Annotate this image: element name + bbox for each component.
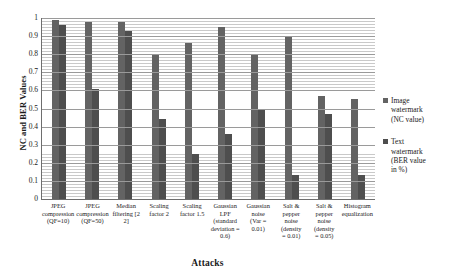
x-axis-tick-label-line: Scaling — [177, 202, 208, 210]
bar-ber-value — [225, 134, 232, 199]
y-axis-tick-label: 0 — [14, 195, 38, 203]
major-gridline — [42, 72, 375, 73]
y-axis-tick-label: 0.5 — [14, 105, 38, 113]
bar-ber-value — [125, 31, 132, 199]
x-axis-tick-label-line: (QF=50) — [76, 217, 108, 225]
major-gridline — [42, 90, 375, 91]
bar-nc-value — [285, 36, 292, 199]
x-axis-tick-label-line: pepper — [309, 210, 340, 218]
chart-legend: Imagewatermark(NC value)Textwatermark(BE… — [383, 96, 475, 188]
x-axis-tick-label-line: Histogram — [342, 202, 373, 210]
x-axis-tick-label-line: 0.6) — [210, 232, 241, 240]
plot-area — [41, 18, 375, 200]
x-axis-tick-label: Histogramequalization — [341, 202, 374, 240]
x-axis-tick-label-line: compression — [42, 210, 74, 218]
x-axis-tick-label-line: (QF=10) — [42, 217, 74, 225]
legend-label-line: watermark — [391, 147, 426, 156]
x-axis-tick-label: Salt &peppernoise(density= 0.05) — [308, 202, 341, 240]
x-axis-tick-label-line: equalization — [342, 210, 373, 218]
x-axis-tick-label: JPEGcompression(QF=10) — [41, 202, 75, 240]
legend-label-line: Text — [391, 137, 426, 146]
bar-nc-value — [118, 22, 125, 199]
x-axis-tick-label: Salt &peppernoise(density= 0.01) — [275, 202, 308, 240]
bar-nc-value — [85, 22, 92, 199]
x-axis-tick-label-line: noise — [243, 210, 274, 218]
y-axis-tick-label: 0.6 — [14, 86, 38, 94]
x-axis-tick-label-line: Gaussian — [243, 202, 274, 210]
x-axis-tick-labels: JPEGcompression(QF=10)JPEGcompression(QF… — [41, 202, 374, 240]
x-axis-tick-label-line: (density — [309, 225, 340, 233]
x-axis-tick-label-line: (standard — [210, 217, 241, 225]
major-gridline — [42, 36, 375, 37]
x-axis-tick-label-line: = 0.01) — [276, 232, 307, 240]
x-axis-tick-label: Gaussiannoise(Var =0.01) — [242, 202, 275, 240]
major-gridline — [42, 181, 375, 182]
bar-ber-value — [159, 119, 166, 199]
legend-swatch-icon — [383, 139, 388, 144]
major-gridline — [42, 163, 375, 164]
y-axis-tick-label: 0.4 — [14, 123, 38, 131]
major-gridline — [42, 54, 375, 55]
x-axis-tick-label-line: compression — [76, 210, 108, 218]
bar-nc-value — [351, 99, 358, 199]
y-axis-tick-label: 0.3 — [14, 141, 38, 149]
bar-ber-value — [358, 175, 365, 199]
bar-ber-value — [258, 109, 265, 200]
x-axis-tick-label-line: JPEG — [42, 202, 74, 210]
x-axis-tick-label-line: 2] — [111, 217, 142, 225]
major-gridline — [42, 145, 375, 146]
legend-entry: Textwatermark(BER valuein %) — [383, 137, 475, 175]
legend-entry: Imagewatermark(NC value) — [383, 96, 475, 124]
x-axis-tick-label: Medianfiltering [22] — [110, 202, 143, 240]
legend-label-line: in %) — [391, 165, 426, 174]
x-axis-tick-label-line: pepper — [276, 210, 307, 218]
bar-chart: NC and BER Values 00.10.20.30.40.50.60.7… — [0, 0, 476, 280]
x-axis-tick-label-line: = 0.05) — [309, 232, 340, 240]
bar-ber-value — [292, 175, 299, 199]
x-axis-tick-label-line: Gaussian — [210, 202, 241, 210]
x-axis-tick-label-line: deviation = — [210, 225, 241, 233]
legend-label-line: (BER value — [391, 156, 426, 165]
major-gridline — [42, 109, 375, 110]
y-axis-tick-label: 0.8 — [14, 50, 38, 58]
legend-label-line: Image — [391, 96, 424, 105]
x-axis-tick-label: JPEGcompression(QF=50) — [75, 202, 109, 240]
legend-label-line: (NC value) — [391, 115, 424, 124]
x-axis-tick-label-line: Median — [111, 202, 142, 210]
x-axis-tick-label-line: JPEG — [76, 202, 108, 210]
x-axis-title: Attacks — [41, 258, 374, 268]
legend-label: Textwatermark(BER valuein %) — [391, 137, 426, 175]
y-axis-tick-label: 1 — [14, 14, 38, 22]
bar-ber-value — [59, 25, 66, 199]
x-axis-tick-label-line: (Var = — [243, 217, 274, 225]
y-axis-tick-label: 0.9 — [14, 32, 38, 40]
x-axis-tick-label: Scalingfactor 1.5 — [176, 202, 209, 240]
x-axis-tick-label-line: Salt & — [276, 202, 307, 210]
x-axis-tick-label-line: factor 2 — [144, 210, 175, 218]
x-axis-tick-label-line: Scaling — [144, 202, 175, 210]
legend-label-line: watermark — [391, 105, 424, 114]
x-axis-tick-label-line: 0.01) — [243, 225, 274, 233]
x-axis-tick-label-line: factor 1.5 — [177, 210, 208, 218]
bar-ber-value — [192, 154, 199, 199]
legend-swatch-icon — [383, 98, 388, 103]
x-axis-tick-label-line: noise — [309, 217, 340, 225]
x-axis-tick-label-line: Salt & — [309, 202, 340, 210]
y-axis-tick-label: 0.7 — [14, 68, 38, 76]
x-axis-tick-label-line: filtering [2 — [111, 210, 142, 218]
legend-label: Imagewatermark(NC value) — [391, 96, 424, 124]
x-axis-tick-label-line: (density — [276, 225, 307, 233]
x-axis-tick-label: GaussianLPF(standarddeviation =0.6) — [209, 202, 242, 240]
bar-nc-value — [185, 43, 192, 199]
y-axis-tick-label: 0.1 — [14, 177, 38, 185]
major-gridline — [42, 127, 375, 128]
bar-nc-value — [318, 96, 325, 199]
x-axis-tick-label-line: LPF — [210, 210, 241, 218]
bar-nc-value — [218, 27, 225, 199]
y-axis-tick-labels: 00.10.20.30.40.50.60.70.80.91 — [14, 12, 38, 205]
x-axis-tick-label: Scalingfactor 2 — [143, 202, 176, 240]
y-axis-tick-label: 0.2 — [14, 159, 38, 167]
x-axis-tick-label-line: noise — [276, 217, 307, 225]
major-gridline — [42, 18, 375, 19]
